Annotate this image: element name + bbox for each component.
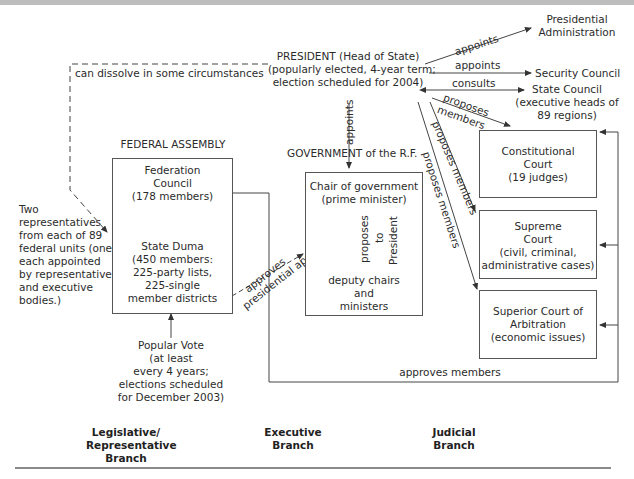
popular-vote-line: elections scheduled (116, 378, 226, 391)
two-reps-line: bodies.) (19, 294, 112, 307)
president-term: (popularly elected, 4-year term; (268, 63, 428, 76)
consults-label: consults (452, 77, 495, 90)
two-reps-line: each appointed (19, 255, 112, 268)
state-duma-line4: 225-single (112, 279, 233, 292)
branch-legislative-line3: Branch (86, 452, 166, 465)
two-reps-line: representatives (19, 216, 112, 229)
arbitration-line1: Superior Court of (479, 305, 597, 318)
supreme-line4: administrative cases) (479, 259, 597, 272)
presidential-admin-line2: Administration (527, 26, 627, 39)
president-label: PRESIDENT (Head of State) (popularly ele… (268, 50, 428, 89)
bottom-rule (15, 467, 611, 469)
presidential-administration: Presidential Administration (527, 13, 627, 39)
constitutional-line3: (19 judges) (479, 171, 597, 184)
federation-council-line3: (178 members) (112, 190, 233, 203)
federal-assembly-heading: FEDERAL ASSEMBLY (112, 138, 234, 151)
supreme-line2: Court (479, 233, 597, 246)
constitutional-court: Constitutional Court (19 judges) (479, 145, 597, 184)
state-duma-line1: State Duma (112, 240, 233, 253)
president-rot-label: President (387, 216, 399, 265)
arbitration-line3: (economic issues) (479, 331, 597, 344)
state-council: State Council (executive heads of 89 reg… (512, 83, 622, 122)
constitutional-line2: Court (479, 158, 597, 171)
deputy-chairs: deputy chairs and ministers (305, 274, 423, 313)
presidential-admin-line1: Presidential (527, 13, 627, 26)
popular-vote-line: every 4 years; (116, 365, 226, 378)
federation-council-line2: Council (112, 177, 233, 190)
government-heading: GOVERNMENT of the R.F. (287, 147, 417, 160)
to-label: to (373, 232, 385, 243)
popular-vote: Popular Vote (at least every 4 years; el… (116, 339, 226, 404)
branch-judicial-line2: Branch (414, 439, 494, 452)
chair-line2: (prime minister) (305, 193, 423, 206)
branch-executive: Executive Branch (253, 426, 333, 452)
chair-of-government: Chair of government (prime minister) (305, 180, 423, 206)
president-election: election scheduled for 2004) (268, 76, 428, 89)
approves-members-label: approves members (380, 366, 520, 379)
chair-line1: Chair of government (305, 180, 423, 193)
state-duma: State Duma (450 members: 225-party lists… (112, 240, 233, 305)
constitutional-line1: Constitutional (479, 145, 597, 158)
federation-council-line1: Federation (112, 164, 233, 177)
president-title: PRESIDENT (Head of State) (268, 50, 428, 63)
two-representatives-note: Two representatives from each of 89 fede… (19, 203, 112, 307)
security-council: Security Council (535, 67, 620, 80)
deputies-line3: ministers (305, 300, 423, 313)
branch-judicial-line1: Judicial (414, 426, 494, 439)
two-reps-line: and executive (19, 281, 112, 294)
two-reps-line: from each of 89 (19, 229, 112, 242)
state-duma-line2: (450 members: (112, 253, 233, 266)
state-duma-line5: member districts (112, 292, 233, 305)
branch-legislative-line2: Representative (86, 439, 166, 452)
can-dissolve-label: can dissolve in some circumstances (75, 67, 264, 80)
deputies-line2: and (305, 287, 423, 300)
popular-vote-line: (at least (116, 352, 226, 365)
branch-legislative-line1: Legislative/ (86, 426, 166, 439)
arbitration-line2: Arbitration (479, 318, 597, 331)
state-council-line1: State Council (512, 83, 622, 96)
arbitration-court: Superior Court of Arbitration (economic … (479, 305, 597, 344)
popular-vote-line: for December 2003) (116, 391, 226, 404)
state-duma-line3: 225-party lists, (112, 266, 233, 279)
branch-judicial: Judicial Branch (414, 426, 494, 452)
appoints-government-label: appoints (343, 100, 355, 145)
supreme-line1: Supreme (479, 220, 597, 233)
supreme-court: Supreme Court (civil, criminal, administ… (479, 220, 597, 272)
branch-executive-line1: Executive (253, 426, 333, 439)
appoints-security-label: appoints (455, 59, 500, 72)
state-council-line3: 89 regions) (512, 109, 622, 122)
deputies-line1: deputy chairs (305, 274, 423, 287)
state-council-line2: (executive heads of (512, 96, 622, 109)
federation-council: Federation Council (178 members) (112, 164, 233, 203)
supreme-line3: (civil, criminal, (479, 246, 597, 259)
popular-vote-line: Popular Vote (116, 339, 226, 352)
branch-legislative: Legislative/ Representative Branch (86, 426, 166, 465)
proposes-label: proposes (358, 215, 370, 263)
two-reps-line: federal units (one (19, 242, 112, 255)
two-reps-line: Two (19, 203, 112, 216)
two-reps-line: by representative (19, 268, 112, 281)
branch-executive-line2: Branch (253, 439, 333, 452)
